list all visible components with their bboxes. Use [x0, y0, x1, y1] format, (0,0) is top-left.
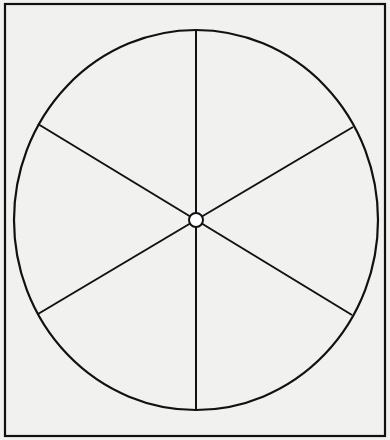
spinner-spoke: [38, 220, 196, 314]
spinner-spoke: [38, 124, 196, 220]
spinner-spoke: [196, 220, 352, 315]
spinner-spoke: [196, 127, 353, 220]
spinner-hub: [189, 213, 203, 227]
spinner-figure: [0, 0, 390, 440]
worksheet-page: [0, 0, 390, 440]
